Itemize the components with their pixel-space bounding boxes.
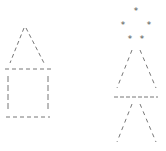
house-roof-right [26, 28, 44, 63]
star-icon: * [120, 20, 125, 30]
tree-upper-left-slant [117, 50, 132, 88]
tree-upper-right-slant [140, 50, 156, 88]
star-icon: * [133, 6, 138, 16]
tree-drawing: ***** [114, 6, 158, 142]
tree-lower-right-slant [140, 104, 156, 142]
star-icon: * [127, 34, 132, 44]
star-cluster: ***** [120, 6, 151, 44]
house-drawing [5, 28, 52, 117]
star-icon: * [146, 20, 151, 30]
star-icon: * [139, 34, 144, 44]
ascii-art-canvas: ***** [0, 0, 166, 151]
house-roof-left [10, 28, 24, 63]
tree-lower-left-slant [117, 104, 132, 142]
